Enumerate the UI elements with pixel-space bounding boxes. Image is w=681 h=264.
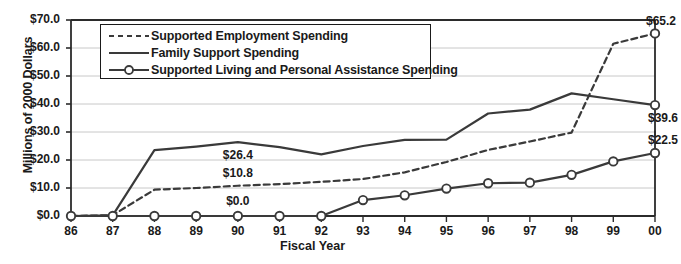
- legend-label-supported-living: Supported Living and Personal Assistance…: [151, 63, 458, 77]
- x-tick-label: 88: [139, 224, 169, 238]
- x-tick-label: 91: [265, 224, 295, 238]
- x-tick-label: 98: [557, 224, 587, 238]
- x-tick-label: 99: [598, 224, 628, 238]
- legend-item-supported-employment[interactable]: Supported Employment Spending: [107, 28, 424, 44]
- y-tick-label: $60.0: [2, 40, 60, 54]
- x-tick-label: 96: [473, 224, 503, 238]
- data-point: [609, 157, 617, 165]
- data-label: $39.6: [637, 111, 681, 125]
- x-tick-label: 87: [98, 224, 128, 238]
- y-tick-label: $10.0: [2, 180, 60, 194]
- data-point: [67, 212, 75, 220]
- data-point: [359, 196, 367, 204]
- x-tick-label: 90: [223, 224, 253, 238]
- chart-container: Millions of 2000 Dollars Fiscal Year $0.…: [0, 0, 681, 264]
- x-tick-label: 89: [181, 224, 211, 238]
- data-point: [442, 184, 450, 192]
- data-label: $65.2: [635, 14, 681, 28]
- x-tick-label: 92: [306, 224, 336, 238]
- data-label: $10.8: [212, 166, 264, 180]
- legend-swatch-dashed-icon: [107, 29, 151, 43]
- y-tick-label: $20.0: [2, 152, 60, 166]
- x-tick-label: 86: [56, 224, 86, 238]
- data-point: [109, 212, 117, 220]
- legend-item-family-support[interactable]: Family Support Spending: [107, 45, 424, 61]
- data-label: $26.4: [212, 148, 264, 162]
- data-point: [317, 212, 325, 220]
- data-point: [234, 212, 242, 220]
- legend-label-family-support: Family Support Spending: [151, 46, 299, 60]
- x-tick-label: 95: [431, 224, 461, 238]
- data-point: [651, 101, 659, 109]
- data-point: [567, 171, 575, 179]
- data-point: [275, 212, 283, 220]
- data-point: [651, 149, 659, 157]
- data-label: $0.0: [212, 194, 264, 208]
- data-point: [651, 29, 659, 37]
- data-point: [484, 179, 492, 187]
- y-tick-label: $40.0: [2, 96, 60, 110]
- y-tick-label: $70.0: [2, 12, 60, 26]
- x-tick-label: 93: [348, 224, 378, 238]
- legend-label-supported-employment: Supported Employment Spending: [151, 29, 348, 43]
- data-point: [526, 178, 534, 186]
- x-tick-label: 97: [515, 224, 545, 238]
- y-tick-label: $50.0: [2, 68, 60, 82]
- x-tick-label: 00: [640, 224, 670, 238]
- data-label: $22.5: [637, 133, 681, 147]
- data-point: [401, 191, 409, 199]
- data-point: [150, 212, 158, 220]
- y-tick-label: $30.0: [2, 124, 60, 138]
- data-point: [192, 212, 200, 220]
- legend-swatch-solid-icon: [107, 46, 151, 60]
- y-tick-label: $0.0: [2, 208, 60, 222]
- legend-swatch-marker-line-icon: [107, 63, 151, 77]
- series-line-2: [71, 153, 655, 216]
- chart-legend: Supported Employment Spending Family Sup…: [100, 24, 431, 79]
- legend-item-supported-living[interactable]: Supported Living and Personal Assistance…: [107, 62, 424, 78]
- x-tick-label: 94: [390, 224, 420, 238]
